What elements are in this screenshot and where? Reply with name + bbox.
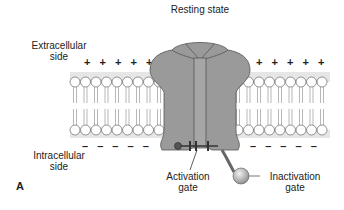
ion-channel-diagram <box>0 0 344 210</box>
sodium-channel-protein <box>150 43 250 151</box>
activation-gate <box>175 141 219 170</box>
inactivation-gate <box>222 150 260 184</box>
